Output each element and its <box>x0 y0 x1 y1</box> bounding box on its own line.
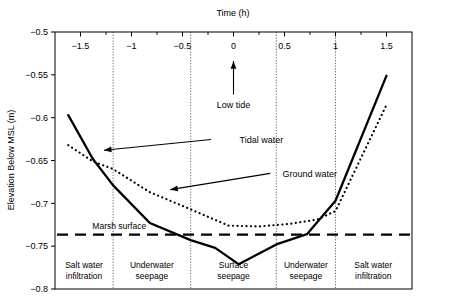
y-tick-label: −0.7 <box>30 199 48 209</box>
zone-label-3: Underwaterseepage <box>284 260 328 281</box>
y-tick-label: −0.6 <box>30 113 48 123</box>
x-tick-label: 1 <box>333 41 338 51</box>
zone-label-4: Salt waterinfiltration <box>354 260 392 281</box>
annotation-text: Tidal water <box>240 135 284 145</box>
zone-label-line1: Salt water <box>354 260 392 270</box>
chart-figure: Time (h) Elevation Below MSL (m) −0.5−0.… <box>0 0 455 306</box>
x-tick-label: −0.5 <box>174 41 192 51</box>
marsh-surface-label: Marsh surface <box>92 221 146 231</box>
x-tick-label: 0.5 <box>278 41 291 51</box>
x-axis-title: Time (h) <box>216 8 249 18</box>
zone-label-line1: Surface <box>219 260 249 270</box>
zone-label-line1: Underwater <box>130 260 174 270</box>
tidal-groundwater-elevation-chart: Time (h) Elevation Below MSL (m) −0.5−0.… <box>0 0 455 306</box>
y-tick-label: −0.55 <box>25 70 48 80</box>
zone-label-2: Surfaceseepage <box>217 260 250 281</box>
zone-label-line2: seepage <box>290 271 323 281</box>
x-tick-label: −1 <box>126 41 136 51</box>
x-tick-label: −1.5 <box>72 41 90 51</box>
zone-label-1: Underwaterseepage <box>130 260 174 281</box>
zone-label-line2: infiltration <box>66 271 103 281</box>
x-tick-label: 1.5 <box>380 41 393 51</box>
annotation-text: Low tide <box>217 100 251 110</box>
zone-label-0: Salt waterinfiltration <box>65 260 103 281</box>
x-tick-label: 0 <box>231 41 236 51</box>
zone-label-line1: Salt water <box>65 260 103 270</box>
y-tick-label: −0.75 <box>25 241 48 251</box>
y-tick-label: −0.8 <box>30 284 48 294</box>
zone-label-line2: seepage <box>217 271 250 281</box>
y-tick-label: −0.5 <box>30 27 48 37</box>
zone-label-line2: infiltration <box>355 271 392 281</box>
y-axis-title: Elevation Below MSL (m) <box>6 110 16 211</box>
y-tick-label: −0.65 <box>25 156 48 166</box>
annotation-text: Ground water <box>282 169 337 179</box>
zone-label-line1: Underwater <box>284 260 328 270</box>
zone-label-line2: seepage <box>136 271 169 281</box>
